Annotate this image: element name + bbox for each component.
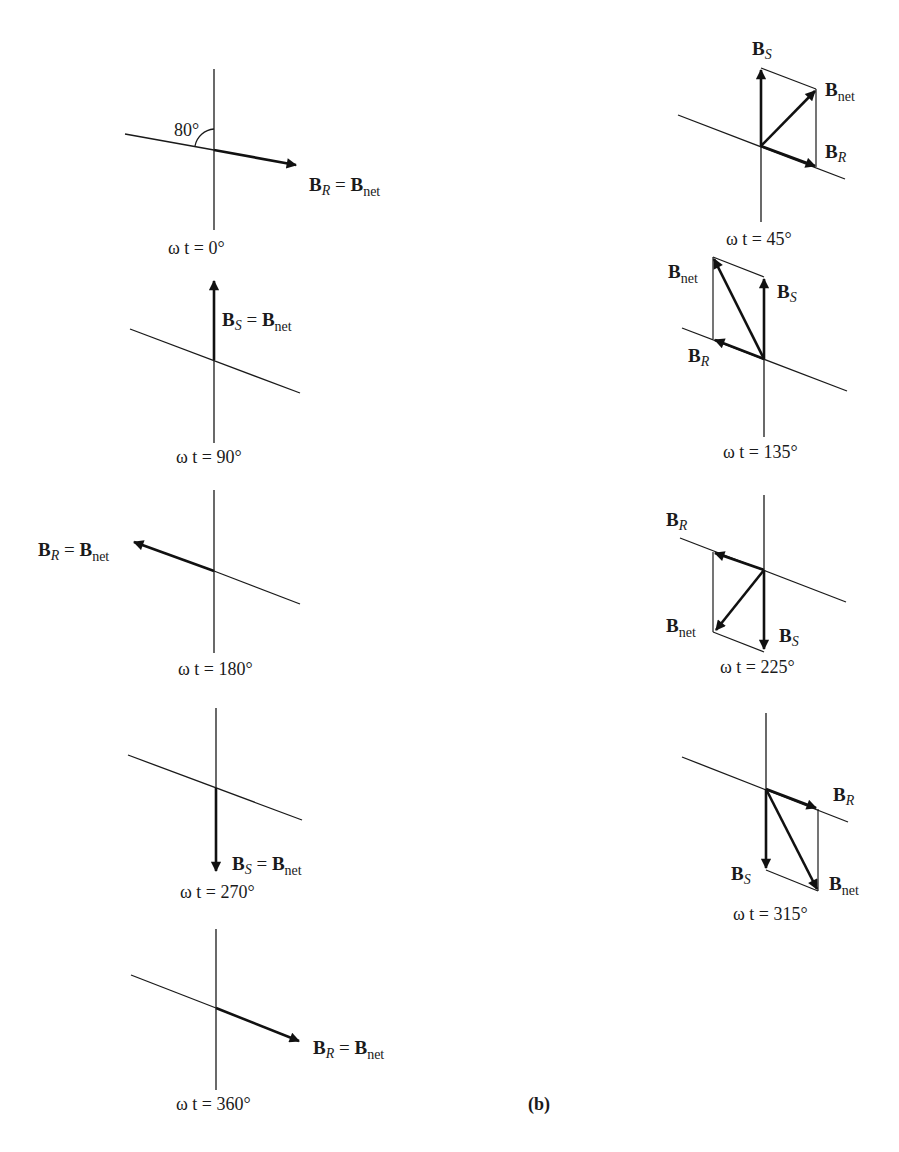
bs-equals-bnet-label: BS = Bnet <box>222 309 292 334</box>
bnet-label: Bnet <box>829 873 859 898</box>
br-equals-bnet-label: BR = Bnet <box>38 539 109 564</box>
bnet-label: Bnet <box>825 79 855 104</box>
bnet-vector-arrow <box>716 570 764 630</box>
bnet-label: Bnet <box>668 261 698 286</box>
angle-80-label: 80° <box>174 120 199 140</box>
br-label: BR <box>833 784 855 808</box>
rotor-axis-line <box>131 975 216 1008</box>
br-label: BR <box>666 509 688 533</box>
panel-wt-270: BS = Bnet ω t = 270° <box>128 708 302 902</box>
bs-label: BS <box>779 625 799 649</box>
br-equals-bnet-label: BR = Bnet <box>313 1037 384 1062</box>
br-vector-arrow <box>214 150 296 165</box>
bs-label: BS <box>731 863 751 887</box>
diagram-svg: 80° BR = Bnet ω t = 0° BS = Bnet ω t = 9… <box>0 0 899 1152</box>
figure-label: (b) <box>528 1094 550 1115</box>
rotor-axis-line <box>214 571 300 604</box>
br-vector-arrow <box>715 553 764 570</box>
caption-wt-45: ω t = 45° <box>726 229 792 249</box>
bnet-vector-arrow <box>761 91 815 146</box>
panel-wt-315: BR BS Bnet ω t = 315° <box>682 713 859 924</box>
br-vector-arrow <box>216 1008 299 1041</box>
panel-wt-45: BS Bnet BR ω t = 45° <box>678 38 855 249</box>
caption-wt-0: ω t = 0° <box>168 238 225 258</box>
caption-wt-135: ω t = 135° <box>723 442 798 462</box>
bs-equals-bnet-label: BS = Bnet <box>232 853 302 878</box>
panel-wt-360: BR = Bnet ω t = 360° <box>131 929 384 1114</box>
caption-wt-90: ω t = 90° <box>176 447 242 467</box>
bs-label: BS <box>752 38 772 62</box>
rotor-axis-line <box>125 134 214 150</box>
br-label: BR <box>825 141 847 165</box>
parallelogram-edge <box>761 68 816 89</box>
panel-wt-0: 80° BR = Bnet ω t = 0° <box>125 69 380 258</box>
br-vector-arrow <box>761 146 815 166</box>
caption-wt-180: ω t = 180° <box>178 659 253 679</box>
panel-wt-180: BR = Bnet ω t = 180° <box>38 490 300 679</box>
bnet-label: Bnet <box>666 615 696 640</box>
br-equals-bnet-label: BR = Bnet <box>309 174 380 199</box>
caption-wt-225: ω t = 225° <box>720 657 795 677</box>
panel-wt-225: BR Bnet BS ω t = 225° <box>666 495 846 677</box>
caption-wt-360: ω t = 360° <box>176 1094 251 1114</box>
panel-wt-135: Bnet BS BR ω t = 135° <box>668 257 847 462</box>
parallelogram-edge <box>713 632 764 652</box>
br-label: BR <box>688 345 710 369</box>
bnet-vector-arrow <box>766 789 817 889</box>
rotating-field-figure: 80° BR = Bnet ω t = 0° BS = Bnet ω t = 9… <box>0 0 899 1152</box>
caption-wt-315: ω t = 315° <box>733 904 808 924</box>
panel-wt-90: BS = Bnet ω t = 90° <box>130 281 300 467</box>
bs-label: BS <box>777 281 797 305</box>
br-vector-arrow <box>134 542 214 571</box>
caption-wt-270: ω t = 270° <box>180 882 255 902</box>
